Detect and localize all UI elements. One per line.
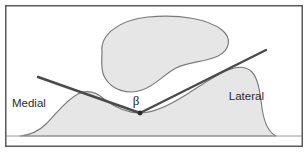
beta-angle-label: β [133, 93, 140, 108]
angle-diagram: β Medial Lateral [0, 0, 308, 152]
medial-label: Medial [12, 97, 46, 109]
figure-container: β Medial Lateral [0, 0, 308, 152]
angle-vertex-point [138, 111, 143, 116]
lateral-label: Lateral [229, 90, 264, 102]
